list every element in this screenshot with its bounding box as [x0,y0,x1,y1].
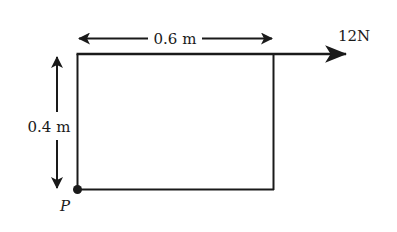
width-dimension: 0.6 m [79,30,272,48]
point-p-label: P [59,197,71,215]
force-label: 12N [338,27,370,45]
point-p-dot [73,185,82,194]
height-dimension: 0.4 m [28,57,71,188]
rectangle-force-diagram: 12N 0.6 m 0.4 m P [0,0,397,232]
height-label: 0.4 m [28,118,71,136]
width-label: 0.6 m [154,30,197,48]
rectangle-body [77,54,274,190]
